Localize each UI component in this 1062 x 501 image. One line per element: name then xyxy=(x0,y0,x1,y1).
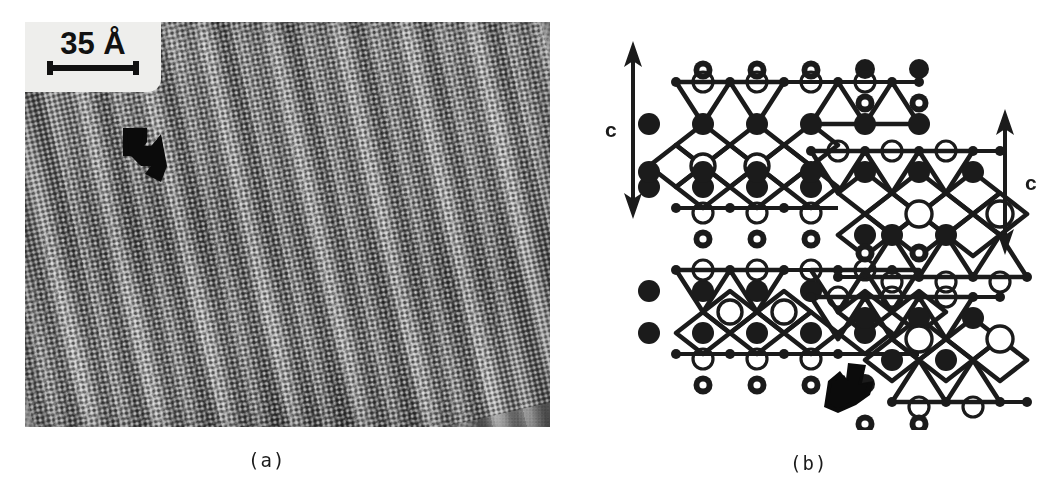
interlayer-ion-row-bottom xyxy=(856,415,929,431)
interlayer-ion-row-top xyxy=(694,59,930,80)
micrograph-annotation-arrow-icon xyxy=(117,126,179,192)
left-c-axis-arrow-icon xyxy=(624,41,642,219)
structure-model-drawing: c c xyxy=(590,25,1062,430)
scale-bar-rule xyxy=(47,65,139,71)
interlayer-ion-row-middle xyxy=(694,230,821,249)
scale-bar-label: 35 Å xyxy=(60,24,125,64)
right-c-axis-arrow-icon xyxy=(996,109,1014,255)
panel-b-caption: (b) xyxy=(790,452,827,474)
model-annotation-arrow-icon xyxy=(824,363,874,413)
panel-a-micrograph: 35 Å (a) xyxy=(25,22,550,427)
right-c-axis-label: c xyxy=(1025,171,1037,194)
figure-root: 35 Å (a) xyxy=(0,0,1062,501)
panel-a-caption: (a) xyxy=(248,449,285,471)
panel-b-structure-model: c c (b) xyxy=(590,25,1062,430)
left-c-axis-label: c xyxy=(605,118,617,141)
scale-bar: 35 Å xyxy=(25,22,161,92)
